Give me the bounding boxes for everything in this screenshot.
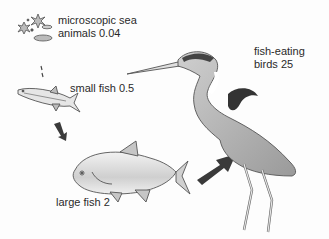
- fish-eating-birds-label-line2: birds 25: [254, 58, 305, 71]
- microscopic-animals-label-line2: animals 0.04: [58, 27, 137, 40]
- arrow-down-right-icon: [54, 122, 67, 141]
- large-fish-label: large fish 2: [56, 196, 110, 209]
- small-fish-label: small fish 0.5: [70, 82, 134, 95]
- food-chain-diagram: microscopic sea animals 0.04 small fish …: [0, 0, 329, 239]
- fish-eating-birds-label: fish-eating birds 25: [254, 45, 305, 71]
- microscopic-animals-icon: [18, 14, 52, 41]
- microscopic-animals-label: microscopic sea animals 0.04: [58, 14, 137, 40]
- heron-bird-icon: [127, 52, 296, 232]
- dashed-arrow-icon: [41, 66, 43, 77]
- large-fish-icon: [73, 141, 190, 202]
- diagram-artwork: [0, 0, 329, 239]
- microscopic-animals-label-line1: microscopic sea: [58, 14, 137, 27]
- fish-eating-birds-label-line1: fish-eating: [254, 45, 305, 58]
